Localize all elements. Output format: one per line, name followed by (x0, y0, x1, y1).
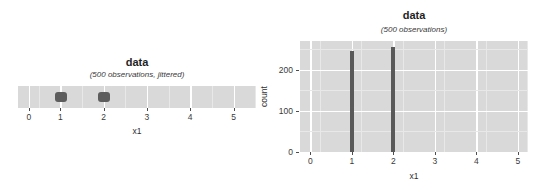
x-tick-label: 0 (19, 113, 39, 122)
y-tick-label: 200 (265, 66, 293, 75)
x-tick-label: 3 (137, 113, 157, 122)
gridline-minor (300, 90, 528, 91)
x-tick-label: 4 (180, 113, 200, 122)
x-tick (476, 152, 477, 155)
left-x-axis-title: x1 (18, 127, 256, 136)
x-tick (190, 108, 191, 111)
gridline-minor (527, 41, 528, 152)
x-tick-label: 0 (300, 157, 320, 166)
gridline-major (29, 86, 31, 108)
gridline-major (300, 70, 528, 72)
left-chart-title: data (18, 56, 256, 68)
gridline-major (518, 41, 520, 152)
x-tick-label: 1 (342, 157, 362, 166)
x-tick (393, 152, 394, 155)
y-tick (296, 70, 299, 71)
y-tick-label: 0 (265, 148, 293, 157)
gridline-major (234, 86, 236, 108)
right-plot-panel (300, 41, 528, 152)
x-tick (147, 108, 148, 111)
gridline-major (300, 111, 528, 113)
x-tick-label: 5 (508, 157, 528, 166)
gridline-minor (361, 41, 362, 152)
data-cluster (55, 92, 67, 102)
x-tick (60, 108, 61, 111)
x-tick-label: 2 (383, 157, 403, 166)
right-x-axis-title: x1 (300, 172, 528, 181)
x-tick-label: 2 (94, 113, 114, 122)
left-chart-subtitle: (500 observations, jittered) (18, 70, 256, 79)
gridline-minor (444, 41, 445, 152)
y-tick (296, 152, 299, 153)
x-tick (352, 152, 353, 155)
y-tick-label: 100 (265, 107, 293, 116)
x-tick (29, 108, 30, 111)
gridline-major (147, 86, 149, 108)
right-y-axis-title: count (260, 67, 269, 127)
gridline-minor (486, 41, 487, 152)
gridline-minor (320, 41, 321, 152)
gridline-major (435, 41, 437, 152)
gridline-minor (169, 86, 170, 108)
right-chart-subtitle: (500 observations) (300, 25, 528, 34)
histogram-bar (350, 51, 354, 152)
gridline-minor (82, 86, 83, 108)
gridline-major (310, 41, 312, 152)
x-tick-label: 4 (466, 157, 486, 166)
left-plot-panel (18, 86, 256, 108)
x-tick (104, 108, 105, 111)
gridline-major (190, 86, 192, 108)
data-cluster (98, 92, 110, 102)
gridline-minor (403, 41, 404, 152)
gridline-major (476, 41, 478, 152)
figure-canvas: data (500 observations, jittered) (0, 0, 543, 193)
gridline-minor (300, 49, 528, 50)
histogram-bar (391, 47, 395, 152)
x-tick (518, 152, 519, 155)
x-tick-label: 5 (224, 113, 244, 122)
x-tick-label: 3 (425, 157, 445, 166)
gridline-minor (212, 86, 213, 108)
gridline-minor (125, 86, 126, 108)
y-tick (296, 111, 299, 112)
x-tick (435, 152, 436, 155)
right-chart-title: data (300, 9, 528, 21)
x-tick (310, 152, 311, 155)
gridline-minor (39, 86, 40, 108)
gridline-minor (255, 86, 256, 108)
gridline-minor (300, 131, 528, 132)
x-tick (234, 108, 235, 111)
x-tick-label: 1 (50, 113, 70, 122)
